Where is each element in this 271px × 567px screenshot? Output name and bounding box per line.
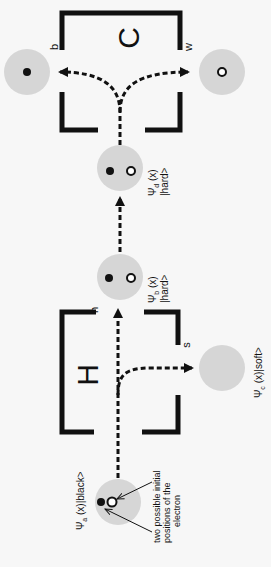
- black-electron-icon: [97, 498, 105, 506]
- color-box-letter: C: [112, 27, 145, 49]
- hardness-box-port-soft: s: [180, 342, 192, 348]
- color-box-port-black: b: [48, 44, 60, 50]
- state-psi-b: Ψb (x) |hard>: [97, 254, 170, 303]
- white-electron-icon: [127, 167, 135, 175]
- state-psi-d: Ψd (x) |hard>: [97, 145, 170, 196]
- annotation-line3: electron: [172, 495, 182, 527]
- hardness-box-port-hard: h: [88, 307, 100, 313]
- white-electron-icon: [127, 274, 135, 282]
- annotation-line1: two possible initial: [152, 470, 162, 543]
- path-to-black: [60, 72, 120, 145]
- state-a-label: Ψa (x)|black>: [75, 471, 88, 530]
- black-electron-icon: [23, 68, 31, 76]
- color-box-bottom-left-bracket: [62, 92, 98, 130]
- white-electron-icon: [108, 498, 117, 507]
- path-to-soft: [118, 368, 192, 395]
- state-black-output: [4, 49, 50, 95]
- wavepacket-circle: [97, 254, 143, 300]
- annotation-text: two possible initial positions of the el…: [152, 470, 182, 543]
- color-box-bottom-right-bracket: [145, 92, 180, 130]
- white-electron-icon: [218, 68, 226, 76]
- color-box-port-white: w: [182, 43, 194, 52]
- black-electron-icon: [105, 274, 113, 282]
- state-c-label: Ψc (x)|soft>: [253, 347, 266, 398]
- state-white-output: [199, 49, 245, 95]
- hardness-box-letter: H: [71, 364, 104, 386]
- wavepacket-circle: [199, 345, 245, 391]
- hardness-box-top-right-bracket: [144, 312, 178, 345]
- state-b-label-line2: |hard>: [159, 274, 170, 303]
- state-psi-a: Ψa (x)|black>: [75, 471, 141, 530]
- stern-gerlach-diagram: C b w Ψd (x) |hard> Ψb (x) |hard> H: [0, 0, 271, 567]
- black-electron-icon: [106, 167, 114, 175]
- hardness-box-bottom-right-bracket: [142, 395, 178, 432]
- hardness-box-paths: [118, 310, 192, 478]
- annotation-line2: positions of the: [162, 482, 172, 543]
- color-box-paths: [60, 72, 188, 145]
- wavepacket-circle: [97, 145, 143, 191]
- state-psi-c: Ψc (x)|soft>: [199, 345, 266, 398]
- state-d-label-line2: |hard>: [159, 167, 170, 196]
